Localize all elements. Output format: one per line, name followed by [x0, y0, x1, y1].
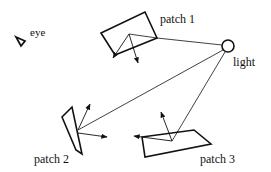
reflection-arrow: [78, 104, 90, 130]
patch-2-shape: [62, 104, 107, 154]
patch-2-label: patch 2: [34, 153, 69, 165]
patch-3-label: patch 3: [200, 153, 235, 165]
eye-icon: [16, 37, 25, 46]
patch-1-shape: [101, 12, 157, 63]
light-label: light: [233, 56, 255, 68]
patch-1-label: patch 1: [160, 13, 195, 25]
ray-light-to-patch3: [172, 52, 225, 141]
ray-light-to-patch1: [157, 38, 222, 45]
light-rays: [78, 38, 225, 141]
ray-light-to-patch2: [78, 50, 223, 130]
patch-3-shape: [134, 112, 211, 157]
eye-label: eye: [30, 27, 45, 38]
reflection-arrow: [78, 133, 107, 137]
light-source-icon: [222, 40, 234, 52]
